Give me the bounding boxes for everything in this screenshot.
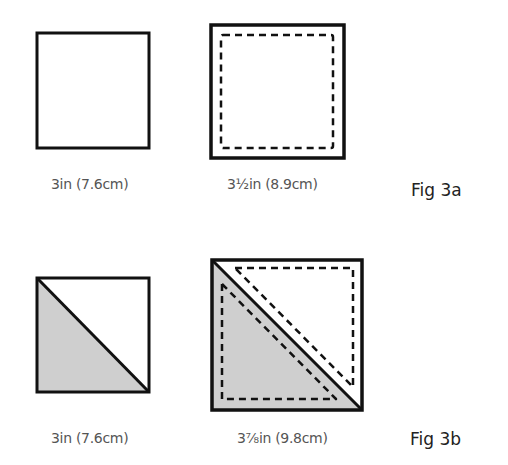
fig3b-caption-cut: 3⅞in (9.8cm) bbox=[237, 430, 328, 446]
fig3b-caption-finished: 3in (7.6cm) bbox=[51, 430, 128, 446]
fig3a-cut-square-with-seam bbox=[211, 25, 344, 158]
fig3a-caption-cut: 3½in (8.9cm) bbox=[227, 176, 318, 192]
diagram-canvas bbox=[0, 0, 508, 465]
fig3a-caption-finished: 3in (7.6cm) bbox=[51, 176, 128, 192]
fig3b-label: Fig 3b bbox=[410, 429, 461, 449]
fig3b-finished-hst bbox=[37, 278, 149, 392]
fig3a-finished-square bbox=[37, 33, 149, 148]
fig3b-cut-hst-with-seams bbox=[212, 260, 362, 410]
fig3a-label: Fig 3a bbox=[411, 180, 462, 200]
